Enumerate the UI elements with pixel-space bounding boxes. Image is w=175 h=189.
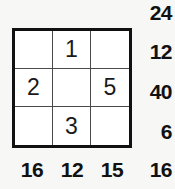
grid-cell-r1c2[interactable]: 5 [91,69,129,107]
grid-cell-r0c1[interactable]: 1 [53,31,91,69]
grid-cell-r0c2[interactable] [91,31,129,69]
grid-cell-r0c0[interactable] [15,31,53,69]
row-product-0: 12 [136,41,172,62]
grid-cell-r1c0[interactable]: 2 [15,69,53,107]
column-product-1: 12 [52,159,92,180]
grid-cell-r2c0[interactable] [15,107,53,145]
diagonal-product-top-right: 24 [150,2,172,23]
row-product-1: 40 [136,81,172,102]
diagonal-product-bottom-right: 16 [150,159,172,180]
puzzle-grid: 1 2 5 3 [12,28,132,148]
grid-cell-r1c1[interactable] [53,69,91,107]
row-product-2: 6 [136,121,172,142]
grid-cell-r2c2[interactable] [91,107,129,145]
grid-cell-r2c1[interactable]: 3 [53,107,91,145]
column-product-0: 16 [12,159,52,180]
multiplication-puzzle: 24 1 2 5 3 12 40 6 16 12 15 16 [0,0,175,189]
column-product-2: 15 [92,159,132,180]
